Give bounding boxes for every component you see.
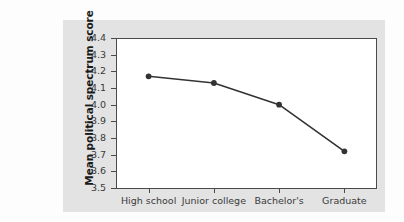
chart-figure: Mean political spectrum score 4.44.34.24… [0,0,404,222]
data-point [211,80,217,86]
data-series-layer [0,0,404,222]
data-point [342,148,348,154]
series-markers [146,73,348,154]
data-point [276,102,282,108]
data-point [146,73,152,79]
series-line [149,76,345,151]
